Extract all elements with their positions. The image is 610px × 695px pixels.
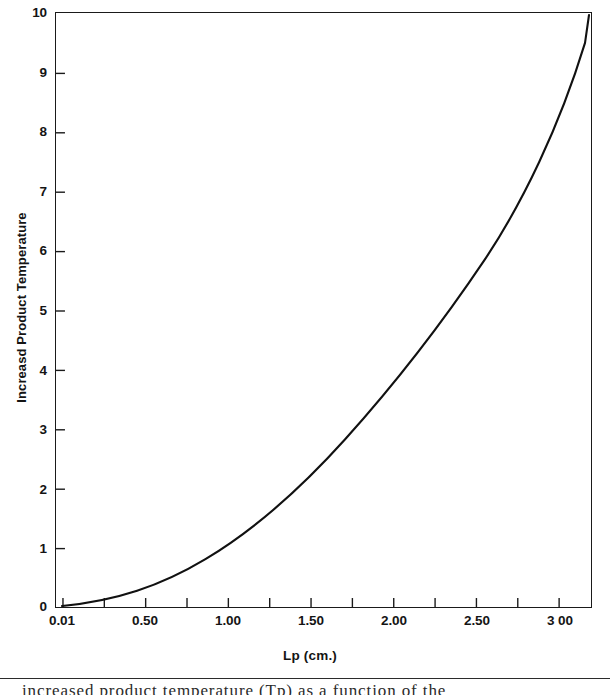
y-tick-label: 1 (13, 543, 47, 557)
caption-clip: increased product temperature (Tp) as a … (0, 681, 610, 695)
x-tick-label: 2.00 (359, 614, 429, 628)
figure-caption: increased product temperature (Tp) as a … (22, 681, 592, 695)
x-tick-marks (63, 598, 559, 607)
data-curve (62, 15, 589, 606)
y-tick-label: 2 (13, 483, 47, 497)
y-tick-label: 10 (13, 6, 47, 20)
x-tick-label: 1.00 (193, 614, 263, 628)
y-tick-marks (56, 73, 65, 548)
x-axis-title: Lp (cm.) (0, 648, 610, 663)
y-tick-label: 0 (13, 600, 47, 614)
x-tick-label: 3 00 (525, 614, 595, 628)
plot-svg (56, 13, 591, 607)
y-tick-label: 9 (13, 66, 47, 80)
y-tick-label: 8 (13, 125, 47, 139)
x-tick-label: 0.50 (110, 614, 180, 628)
y-axis-title: Increasd Product Temperature (14, 178, 29, 438)
plot-area (55, 12, 592, 608)
figure-container: 10 9 8 7 6 5 4 3 2 1 0 (0, 0, 610, 695)
x-tick-label: 0.01 (27, 614, 97, 628)
caption-divider (0, 678, 610, 679)
x-tick-label: 2.50 (442, 614, 512, 628)
x-tick-label: 1.50 (276, 614, 346, 628)
